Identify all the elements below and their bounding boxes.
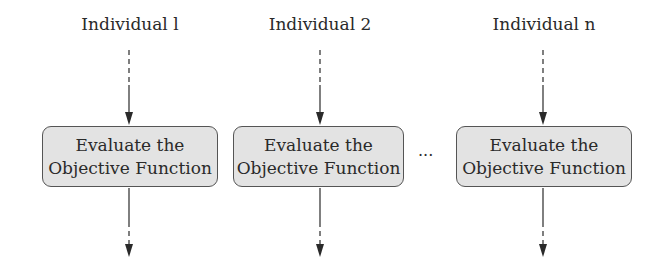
output-arrow-1-icon xyxy=(125,188,133,257)
input-arrow-n-icon xyxy=(539,50,547,125)
output-arrow-n-icon xyxy=(539,188,547,257)
input-arrow-1-icon xyxy=(125,50,133,125)
arrows-layer xyxy=(0,0,662,277)
input-arrow-2-icon xyxy=(316,50,324,125)
output-arrow-2-icon xyxy=(316,188,324,257)
